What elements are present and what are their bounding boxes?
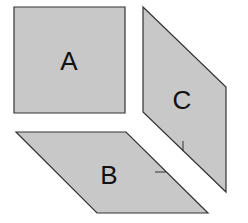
face-a: A [14,7,125,113]
face-a-label: A [60,46,78,76]
face-c-label: C [173,85,192,115]
cube-faces-diagram: A C B [0,0,248,223]
face-b-label: B [100,160,117,190]
